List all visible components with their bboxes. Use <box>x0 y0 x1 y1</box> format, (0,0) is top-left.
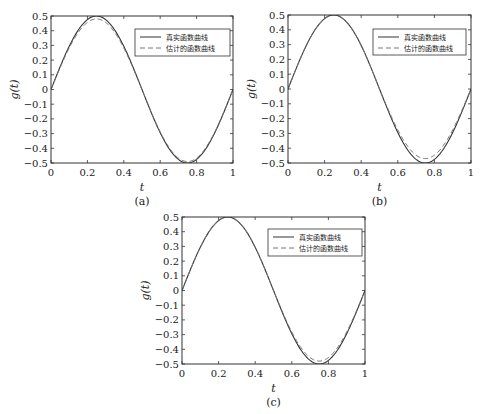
legend-entry-label: 真实函数曲线 <box>166 33 208 42</box>
x-tick-label: 0.2 <box>211 368 227 379</box>
y-tick-label: −0.2 <box>24 113 48 124</box>
y-tick-label: 0.3 <box>32 40 48 51</box>
x-tick-label: 0.4 <box>116 167 132 178</box>
y-tick-label: −0.3 <box>24 128 48 139</box>
y-tick-label: 0.5 <box>32 11 48 22</box>
y-tick-label: 0.4 <box>163 226 179 237</box>
legend-entry-label: 估计的函数曲线 <box>299 244 348 253</box>
x-tick-label: 0.6 <box>152 167 168 178</box>
x-tick-label: 0.4 <box>353 167 369 178</box>
x-tick-label: 1 <box>230 167 236 178</box>
y-tick-label: 0.2 <box>32 55 48 66</box>
y-tick-label: 0.1 <box>32 69 48 80</box>
x-tick-label: 0 <box>179 368 185 379</box>
legend-entry-label: 真实函数曲线 <box>299 233 341 242</box>
x-tick-label: 0.8 <box>426 167 442 178</box>
y-tick-label: 0.4 <box>32 25 48 36</box>
y-axis-label: g(t) <box>8 79 21 99</box>
y-tick-label: 0.1 <box>269 69 285 80</box>
chart-panel-a: 00.20.40.60.810.50.40.30.20.10−0.1−0.2−0… <box>8 11 236 209</box>
y-tick-label: 0.4 <box>269 24 285 35</box>
panel-caption: (c) <box>266 396 281 409</box>
legend-entry-label: 估计的函数曲线 <box>166 44 215 53</box>
y-tick-label: −0.5 <box>24 158 48 169</box>
y-axis-label: g(t) <box>245 79 258 99</box>
x-tick-label: 0.8 <box>189 167 205 178</box>
y-tick-label: −0.1 <box>155 300 179 311</box>
legend: 真实函数曲线估计的函数曲线 <box>373 29 466 55</box>
y-axis-label: g(t) <box>139 280 152 300</box>
y-tick-label: −0.3 <box>155 329 179 340</box>
x-tick-label: 0.6 <box>390 167 406 178</box>
x-tick-label: 0 <box>48 167 54 178</box>
y-tick-label: 0.5 <box>269 10 285 21</box>
x-axis-label: t <box>271 382 276 395</box>
y-tick-label: 0 <box>279 84 285 95</box>
panel-caption: (b) <box>372 195 388 208</box>
figure: 00.20.40.60.810.50.40.30.20.10−0.1−0.2−0… <box>0 0 483 414</box>
x-tick-label: 0 <box>285 167 291 178</box>
x-tick-label: 0.2 <box>79 167 95 178</box>
y-tick-label: −0.4 <box>24 143 48 154</box>
y-tick-label: −0.1 <box>24 99 48 110</box>
chart-panel-b: 00.20.40.60.810.50.40.30.20.10−0.1−0.2−0… <box>245 10 474 209</box>
y-tick-label: −0.5 <box>155 359 179 370</box>
y-tick-label: 0 <box>173 285 179 296</box>
x-tick-label: 0.8 <box>320 368 336 379</box>
y-tick-label: 0.5 <box>163 212 179 223</box>
y-tick-label: −0.4 <box>155 344 179 355</box>
y-tick-label: −0.5 <box>261 158 285 169</box>
panel-caption: (a) <box>134 195 149 208</box>
y-tick-label: 0.2 <box>163 256 179 267</box>
chart-panel-c: 00.20.40.60.810.50.40.30.20.10−0.1−0.2−0… <box>139 212 368 410</box>
y-tick-label: 0.2 <box>269 54 285 65</box>
x-axis-label: t <box>140 181 145 194</box>
x-tick-label: 0.6 <box>284 368 300 379</box>
y-tick-label: −0.2 <box>155 314 179 325</box>
x-axis-label: t <box>377 181 382 194</box>
x-tick-label: 0.2 <box>317 167 333 178</box>
y-tick-label: −0.1 <box>261 98 285 109</box>
y-tick-label: −0.3 <box>261 128 285 139</box>
legend: 真实函数曲线估计的函数曲线 <box>268 229 362 256</box>
y-tick-label: 0.1 <box>163 270 179 281</box>
y-tick-label: 0.3 <box>269 39 285 50</box>
x-tick-label: 1 <box>468 167 474 178</box>
legend: 真实函数曲线估计的函数曲线 <box>135 29 230 56</box>
y-tick-label: −0.4 <box>261 143 285 154</box>
y-tick-label: 0.3 <box>163 241 179 252</box>
y-tick-label: −0.2 <box>261 113 285 124</box>
legend-entry-label: 真实函数曲线 <box>404 33 446 42</box>
y-tick-label: 0 <box>42 84 48 95</box>
legend-entry-label: 估计的函数曲线 <box>404 44 453 53</box>
x-tick-label: 0.4 <box>247 368 263 379</box>
x-tick-label: 1 <box>362 368 368 379</box>
